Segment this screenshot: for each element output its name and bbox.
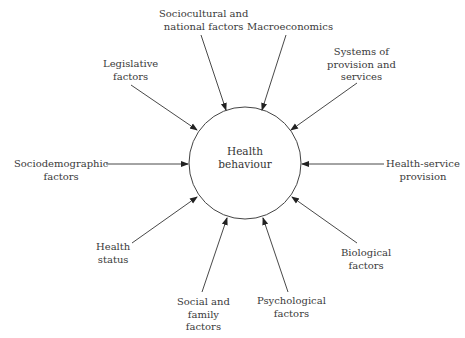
- factor-line: services: [327, 71, 396, 84]
- factor-line: Sociocultural and: [159, 8, 248, 21]
- factor-line: provision and: [327, 59, 396, 72]
- factor-line: family: [177, 309, 230, 322]
- arrow-social-family: [202, 218, 227, 292]
- factor-psychological: Psychological factors: [257, 295, 326, 320]
- center-line2: behaviour: [205, 158, 285, 171]
- factor-line: status: [96, 254, 130, 267]
- center-label: Health behaviour: [205, 145, 285, 171]
- factor-line: Health-service: [386, 158, 460, 171]
- factor-line: provision: [386, 171, 460, 184]
- factor-line: factors: [257, 308, 326, 321]
- factor-biological: Biological factors: [341, 247, 391, 272]
- arrow-legislative: [131, 85, 197, 130]
- factor-line: Psychological: [257, 295, 326, 308]
- factor-line: national factors: [159, 21, 248, 34]
- factor-line: Health: [96, 241, 130, 254]
- factor-line: Sociodemographic: [14, 158, 108, 171]
- factor-line: Social and: [177, 296, 230, 309]
- arrow-biological: [292, 197, 357, 243]
- factor-legislative: Legislative factors: [103, 58, 158, 83]
- arrow-sociocultural: [201, 35, 226, 110]
- factor-line: factors: [341, 260, 391, 273]
- factor-line: factors: [103, 71, 158, 84]
- arrow-systems: [291, 83, 357, 130]
- arrow-health-status: [132, 197, 197, 243]
- factor-line: Systems of: [327, 46, 396, 59]
- factor-sociodemographic: Sociodemographic factors: [14, 158, 108, 183]
- factor-line: Macroeconomics: [247, 21, 333, 34]
- arrow-macroeconomics: [262, 35, 286, 110]
- factor-line: Biological: [341, 247, 391, 260]
- factor-sociocultural: Sociocultural and national factors: [159, 8, 248, 33]
- factor-line: factors: [177, 321, 230, 334]
- factor-systems: Systems of provision and services: [327, 46, 396, 84]
- factor-health-service: Health-service provision: [386, 158, 460, 183]
- factor-line: factors: [14, 171, 108, 184]
- factor-social-family: Social and family factors: [177, 296, 230, 334]
- center-line1: Health: [205, 145, 285, 158]
- factor-health-status: Health status: [96, 241, 130, 266]
- factor-macroeconomics: Macroeconomics: [247, 21, 333, 34]
- arrow-psychological: [263, 218, 288, 292]
- factor-line: Legislative: [103, 58, 158, 71]
